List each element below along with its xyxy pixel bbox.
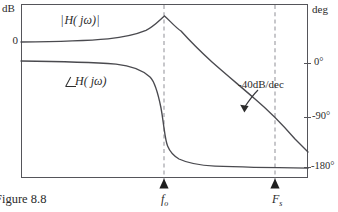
x-axis-label-fo-sub: o — [164, 199, 168, 208]
phase-curve-label-text: H( jω) — [75, 74, 106, 88]
magnitude-curve-label: |H( jω)| — [60, 13, 100, 28]
x-axis-label-fo: fo — [161, 192, 168, 208]
slope-annotation-label: -40dB/dec — [238, 78, 284, 90]
plot-frame — [21, 4, 308, 178]
magnitude-curve-label-text: H( jω) — [64, 13, 95, 27]
y-axis-tick-0db: 0 — [0, 34, 18, 46]
y2-tick-mark-0deg — [304, 63, 311, 64]
y2-axis-tick-0deg: 0° — [314, 56, 323, 67]
x-axis-label-fs-sub: s — [279, 199, 282, 208]
x-axis-label-fs: Fs — [272, 192, 282, 208]
y2-tick-mark-90deg — [304, 117, 311, 118]
y2-axis-tick-minus180deg: -180° — [311, 160, 334, 171]
x-tick-marker-fo — [159, 179, 168, 189]
figure-8-8: dB deg 0 0° -90° -180° |H( jω)| H( jω) -… — [0, 0, 338, 212]
y2-tick-mark-180deg — [304, 167, 311, 168]
phase-curve-label: H( jω) — [66, 74, 106, 89]
figure-caption: Figure 8.8 — [0, 192, 46, 207]
y-axis-unit-db: dB — [2, 2, 15, 14]
angle-icon — [66, 75, 75, 87]
x-tick-marker-fs — [270, 179, 279, 189]
y2-axis-tick-minus90deg: -90° — [312, 110, 330, 121]
y2-axis-unit-deg: deg — [312, 3, 328, 15]
abs-bar-right: | — [96, 13, 100, 28]
